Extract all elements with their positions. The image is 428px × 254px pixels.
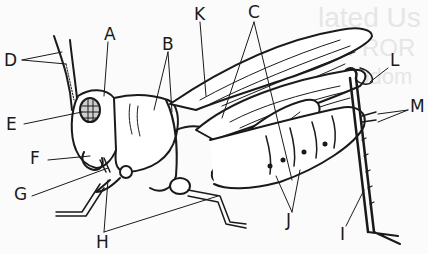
- label-l: L: [390, 52, 399, 69]
- label-m: M: [410, 98, 425, 115]
- label-j: J: [286, 212, 291, 229]
- antennae: [54, 36, 78, 110]
- label-e: E: [6, 116, 17, 133]
- label-a: A: [104, 26, 116, 43]
- label-i: I: [340, 226, 345, 243]
- hind-tibia: [346, 68, 400, 244]
- label-g: G: [14, 186, 27, 203]
- label-k: K: [194, 6, 205, 23]
- head: [72, 90, 120, 172]
- label-h: H: [96, 234, 109, 251]
- label-c: C: [248, 4, 260, 21]
- label-f: F: [30, 150, 40, 167]
- diagram-canvas: lated Us NFROR abdom: [0, 0, 428, 254]
- label-d: D: [4, 52, 17, 69]
- grasshopper-illustration: [0, 0, 428, 254]
- label-b: B: [162, 36, 174, 53]
